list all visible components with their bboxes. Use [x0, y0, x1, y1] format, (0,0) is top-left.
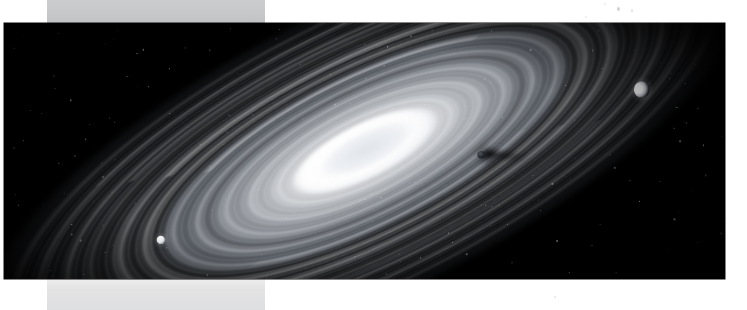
- scan-speck: [554, 296, 556, 298]
- star: [41, 113, 42, 114]
- star: [22, 140, 23, 141]
- star: [168, 68, 169, 69]
- star: [117, 30, 118, 31]
- star: [126, 76, 128, 78]
- star: [70, 100, 71, 101]
- star: [705, 175, 706, 176]
- star: [29, 109, 30, 110]
- page-band-bottom: [47, 279, 265, 310]
- star: [137, 86, 138, 87]
- star: [721, 233, 722, 234]
- scan-speck: [617, 7, 620, 11]
- star: [54, 75, 55, 76]
- page-band-top: [47, 0, 265, 24]
- star: [142, 49, 143, 50]
- star: [639, 201, 640, 202]
- astronomical-plate: [4, 23, 725, 279]
- star: [230, 29, 231, 30]
- star: [600, 224, 601, 225]
- star: [55, 88, 56, 89]
- star: [13, 148, 14, 149]
- star: [148, 86, 149, 87]
- star: [511, 262, 512, 263]
- star: [209, 50, 211, 52]
- scan-speck: [585, 16, 587, 18]
- star: [14, 48, 15, 49]
- moon-crescent: [634, 81, 650, 98]
- star: [679, 212, 680, 213]
- star: [697, 242, 698, 243]
- star: [674, 219, 676, 221]
- star: [105, 44, 106, 45]
- moon-dark: [477, 151, 485, 158]
- plate-image: [4, 23, 725, 279]
- star: [615, 272, 617, 274]
- star: [58, 33, 59, 34]
- star: [668, 249, 669, 250]
- star: [568, 273, 569, 274]
- star: [722, 221, 723, 222]
- image-viewer: [0, 0, 747, 310]
- star: [692, 190, 693, 191]
- star: [22, 36, 23, 37]
- scan-speck: [631, 9, 633, 12]
- star: [660, 181, 661, 182]
- star: [685, 253, 686, 254]
- star: [136, 53, 137, 54]
- star: [113, 39, 114, 40]
- scan-speck: [604, 3, 606, 5]
- star: [185, 47, 187, 49]
- moon-small: [157, 236, 165, 244]
- star: [556, 240, 558, 242]
